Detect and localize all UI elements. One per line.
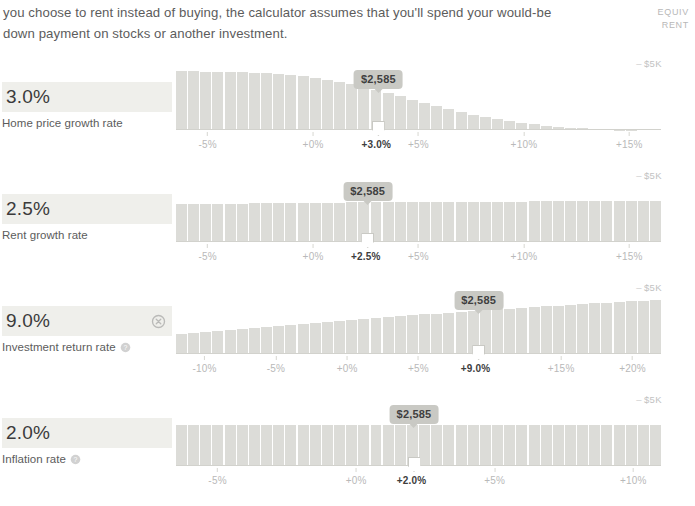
slider-value-chip[interactable]: 9.0% — [2, 306, 172, 336]
bar — [249, 203, 260, 242]
slider-value-text: 9.0% — [6, 310, 151, 332]
bar-series — [176, 68, 661, 130]
value-tooltip: $2,585 — [454, 291, 503, 310]
bar — [322, 322, 333, 354]
equiv-rent-line2: RENT — [619, 19, 689, 32]
tick-mark — [207, 244, 208, 248]
slider-handle[interactable] — [472, 345, 485, 360]
bar — [553, 306, 564, 354]
slider-label: Investment return rate — [2, 341, 116, 353]
bar — [407, 100, 418, 130]
bar — [334, 203, 345, 242]
bar — [176, 71, 187, 130]
x-axis-tick: +15% — [616, 244, 643, 262]
tick-mark — [494, 468, 495, 472]
slider-label-line: Investment return rate? — [2, 341, 172, 353]
bar — [334, 425, 345, 466]
tick-label: +5% — [408, 251, 429, 262]
bar — [285, 203, 296, 242]
slider-left-column: 9.0%Investment return rate? — [2, 306, 172, 353]
bar — [212, 331, 223, 354]
bar — [431, 106, 442, 130]
slider-handle[interactable] — [372, 121, 385, 136]
tick-mark — [418, 356, 419, 360]
bar — [504, 425, 515, 466]
bar — [188, 204, 199, 242]
bar — [601, 201, 612, 242]
bar — [541, 425, 552, 466]
slider-value-chip[interactable]: 3.0% — [2, 82, 172, 112]
slider-chart[interactable]: –$5K-5%+0%+3.0%+5%+10%+15%$2,585 — [176, 60, 666, 156]
slider-rows: 3.0%Home price growth rate–$5K-5%+0%+3.0… — [0, 56, 695, 488]
bar — [188, 333, 199, 354]
bar — [285, 325, 296, 354]
x-axis-tick: +0% — [346, 468, 367, 486]
svg-text:?: ? — [123, 344, 127, 351]
bar — [456, 202, 467, 242]
bar — [638, 301, 649, 354]
bar — [529, 425, 540, 466]
help-circle-icon[interactable]: ? — [70, 454, 81, 465]
bar — [589, 303, 600, 354]
bar-plot — [176, 180, 661, 242]
bar — [504, 309, 515, 355]
slider-value-text: 2.0% — [6, 422, 166, 444]
tick-label: +5% — [408, 139, 429, 150]
slider-value-chip[interactable]: 2.0% — [2, 418, 172, 448]
reset-circle-icon[interactable] — [151, 314, 166, 329]
bar — [419, 202, 430, 242]
bar — [650, 300, 661, 354]
tick-label: +10% — [511, 251, 538, 262]
bar — [237, 425, 248, 466]
x-axis-tick: +5% — [484, 468, 505, 486]
bar — [310, 425, 321, 466]
bar — [200, 72, 211, 130]
slider-handle-group[interactable]: $2,585 — [358, 121, 398, 136]
bar — [650, 425, 661, 466]
bar — [249, 73, 260, 130]
x-axis-tick: +0% — [337, 356, 358, 374]
bar — [188, 71, 199, 130]
slider-value-chip[interactable]: 2.5% — [2, 194, 172, 224]
tick-mark — [356, 468, 357, 472]
bar — [334, 82, 345, 130]
x-axis-tick: +15% — [616, 132, 643, 150]
slider-handle[interactable] — [408, 457, 421, 472]
slider-chart[interactable]: –$5K-5%+0%+2.0%+5%+10%$2,585 — [176, 396, 666, 492]
bar — [541, 201, 552, 242]
help-circle-icon[interactable]: ? — [120, 342, 131, 353]
slider-handle-group[interactable]: $2,585 — [394, 457, 434, 472]
slider-chart[interactable]: –$5K-10%-5%+0%+5%+9.0%+15%+20%$2,585 — [176, 284, 666, 380]
bar — [650, 201, 661, 242]
bar — [480, 425, 491, 466]
bar — [261, 203, 272, 242]
slider-value-text: 2.5% — [6, 198, 166, 220]
bar — [176, 204, 187, 242]
bar — [443, 109, 454, 130]
bar — [541, 306, 552, 354]
bar — [261, 425, 272, 466]
intro-text: you choose to rent instead of buying, th… — [3, 2, 563, 44]
slider-chart[interactable]: –$5K-5%+0%+2.5%+5%+10%+15%$2,585 — [176, 172, 666, 268]
bar — [322, 80, 333, 130]
bar — [298, 203, 309, 242]
slider-left-column: 2.5%Rent growth rate — [2, 194, 172, 241]
tick-mark — [313, 244, 314, 248]
bar — [273, 203, 284, 242]
slider-handle-group[interactable]: $2,585 — [459, 345, 499, 360]
bar — [638, 201, 649, 242]
x-axis-baseline — [176, 353, 661, 354]
bar — [249, 425, 260, 466]
bar — [212, 425, 223, 466]
tick-label: +2.0% — [397, 475, 427, 486]
value-tooltip: $2,585 — [390, 405, 439, 424]
slider-handle[interactable] — [361, 233, 374, 248]
slider-handle-group[interactable]: $2,585 — [348, 233, 388, 248]
bar — [334, 321, 345, 354]
slider-label: Home price growth rate — [2, 117, 123, 129]
x-axis-tick: +0% — [303, 244, 324, 262]
slider-value-text: 3.0% — [6, 86, 166, 108]
bar — [529, 307, 540, 354]
x-axis-tick: +10% — [511, 244, 538, 262]
bar — [504, 202, 515, 242]
